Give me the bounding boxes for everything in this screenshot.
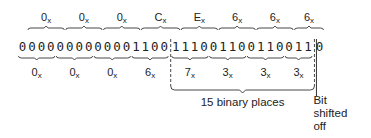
bit-0: 0: [19, 39, 27, 54]
bottom-hex-1: 0x: [69, 66, 79, 80]
top-hex-5: 6x: [232, 11, 242, 25]
top-hex-7: 6x: [304, 11, 314, 25]
bottom-hex-5: 3x: [223, 66, 233, 80]
bottom-hex-4: 7x: [185, 66, 195, 80]
bit-1: 0: [28, 39, 36, 54]
bottom-hex-7: 3x: [293, 66, 303, 80]
bit-22: 1: [229, 39, 237, 54]
bit-shift-diagram: 000000000000110011100110011001100x0x0xCx…: [0, 0, 371, 138]
bit-28: 0: [285, 39, 293, 54]
bit-6: 0: [75, 39, 83, 54]
bit-24: 0: [248, 39, 256, 54]
top-hex-2: 0x: [117, 11, 127, 25]
bit-18: 1: [191, 39, 199, 54]
bit-15: 0: [160, 39, 168, 54]
bottom-brace-0: [19, 56, 55, 60]
bit-5: 0: [66, 39, 74, 54]
bit-13: 1: [142, 39, 150, 54]
top-brace-4: [181, 26, 217, 30]
top-hex-4: Ex: [194, 11, 205, 25]
top-brace-5: [219, 26, 255, 30]
places-label: 15 binary places: [201, 96, 285, 108]
bit-29: 1: [295, 39, 303, 54]
shifted-label-line-1: shifted: [313, 107, 347, 119]
bit-30: 1: [304, 39, 312, 54]
bit-9: 0: [104, 39, 112, 54]
bottom-brace-2: [94, 56, 130, 60]
top-hex-6: 6x: [270, 11, 280, 25]
top-brace-6: [257, 26, 293, 30]
bottom-brace-7: [285, 56, 312, 60]
shifted-label-line-2: off: [313, 120, 326, 132]
bottom-brace-6: [247, 56, 283, 60]
bottom-hex-6: 3x: [260, 66, 270, 80]
bit-27: 0: [276, 39, 284, 54]
top-brace-3: [141, 26, 179, 30]
bottom-brace-1: [56, 56, 92, 60]
shifted-label-line-0: Bit: [313, 94, 327, 106]
bit-14: 0: [151, 39, 159, 54]
bit-8: 0: [94, 39, 102, 54]
bit-23: 0: [238, 39, 246, 54]
top-brace-1: [66, 26, 102, 30]
bit-21: 1: [219, 39, 227, 54]
top-brace-2: [104, 26, 140, 30]
bottom-brace-5: [210, 56, 246, 60]
bottom-brace-3: [132, 56, 168, 60]
top-hex-1: 0x: [79, 11, 89, 25]
bottom-brace-4: [172, 56, 208, 60]
top-hex-0: 0x: [41, 11, 51, 25]
bit-25: 1: [257, 39, 265, 54]
bit-19: 0: [200, 39, 208, 54]
top-hex-3: Cx: [155, 11, 167, 25]
bit-3: 0: [47, 39, 55, 54]
bit-7: 0: [85, 39, 93, 54]
top-brace-0: [28, 26, 64, 30]
bit-20: 0: [210, 39, 218, 54]
bit-2: 0: [38, 39, 46, 54]
bit-10: 0: [113, 39, 121, 54]
bit-4: 0: [57, 39, 65, 54]
bit-26: 1: [266, 39, 274, 54]
bit-17: 1: [181, 39, 189, 54]
places-brace: [171, 86, 315, 93]
bit-12: 1: [132, 39, 140, 54]
bit-16: 1: [172, 39, 180, 54]
bit-11: 0: [123, 39, 131, 54]
bottom-hex-0: 0x: [32, 66, 42, 80]
bottom-hex-2: 0x: [107, 66, 117, 80]
bottom-hex-3: 6x: [145, 66, 155, 80]
top-brace-7: [295, 26, 324, 30]
